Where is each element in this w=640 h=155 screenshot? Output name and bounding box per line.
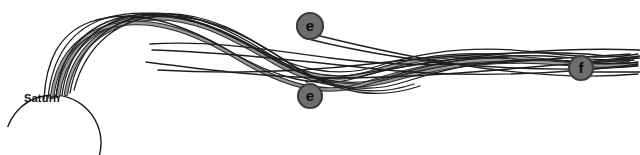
node-f[interactable]: f <box>569 56 593 80</box>
saturn-limb-arc <box>8 95 101 155</box>
saturn-arc-group <box>8 95 101 155</box>
node-e-upper[interactable]: e <box>297 13 323 39</box>
flux-ribbon-layer <box>52 17 636 97</box>
diagram-canvas: eef Saturn <box>0 0 640 155</box>
moon-marker-label: e <box>306 87 314 104</box>
flux-tube-svg: eef <box>0 0 640 155</box>
saturn-label: Saturn <box>24 92 60 104</box>
node-e-lower[interactable]: e <box>298 84 322 108</box>
flux-line-layer <box>44 13 640 99</box>
moon-marker-label: e <box>306 17 314 34</box>
